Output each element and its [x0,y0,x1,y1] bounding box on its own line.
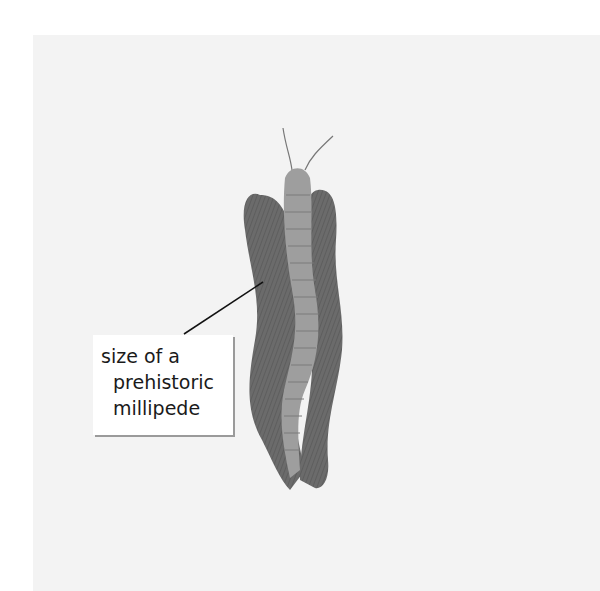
leader-line [184,282,263,334]
size-label: size of a prehistoric millipede [93,335,233,435]
millipede-illustration [0,0,600,591]
antenna-right [305,136,333,170]
label-line-2: prehistoric [93,369,233,395]
label-line-1: size of a [93,343,233,369]
antenna-left [283,128,292,170]
label-line-3: millipede [93,395,233,421]
